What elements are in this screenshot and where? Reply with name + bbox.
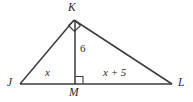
vertex-label-l: L [178, 77, 184, 89]
vertex-label-k: K [68, 2, 76, 14]
altitude-measure-label: 6 [80, 43, 86, 54]
left-segment-measure-label: x [45, 67, 50, 78]
vertex-label-j: J [7, 77, 12, 89]
right-segment-measure-label: x + 5 [103, 67, 126, 78]
right-angle-mark-m [76, 77, 84, 84]
figure-canvas [0, 0, 193, 102]
geometry-figure: K J M L 6 x x + 5 [0, 0, 193, 102]
vertex-label-m: M [69, 87, 79, 99]
right-angle-mark-k-edge-left [69, 21, 75, 26]
